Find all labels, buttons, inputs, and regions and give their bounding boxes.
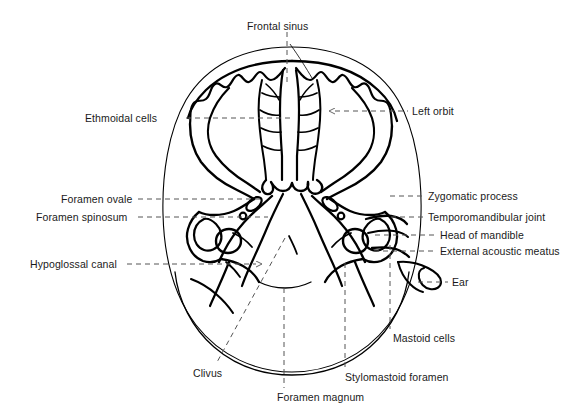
frontal-inner-table-right [296,68,392,126]
petrous-detail-left [332,233,351,247]
foramen-spinosum-right [240,213,247,220]
label-foramen-magnum: Foramen magnum [277,391,364,403]
label-mastoid-cells: Mastoid cells [393,332,455,344]
tmj-space-left [368,231,408,237]
ethmoid-cell-oblique-left [266,84,279,100]
foramen-spinosum-left [338,213,345,220]
foramen-ovale-right [244,194,264,213]
label-frontal-sinus: Frontal sinus [247,20,308,32]
ethmoid-cell-septa-b [260,110,280,115]
ethmoid-septum-right [296,70,299,180]
label-ear: Ear [452,276,469,288]
label-stylomastoid-foramen: Stylomastoid foramen [345,371,449,383]
label-clivus: Clivus [193,367,222,379]
sphenoid-body [262,180,322,194]
label-foramen-spinosum: Foramen spinosum [36,211,127,223]
diagram-canvas [0,0,588,419]
ethmoid-cell-septa-c [261,128,281,132]
cranial-vault-inner-right [292,61,397,121]
ethmoid-cell-septa-g [298,128,318,132]
orbit-right-outer [190,124,254,199]
cranial-vault-inner [188,61,292,118]
jugular-left [355,262,374,306]
foramen-magnum-margin [259,282,311,288]
label-left-orbit: Left orbit [412,105,454,117]
label-hypoglossal-canal: Hypoglossal canal [30,258,117,270]
ethmoid-cell-septa-f [299,110,319,115]
skull-outlines [163,47,441,375]
ethmoid-cell-septa-d [263,146,281,150]
label-temporomandibular-joint: Temporomandibular joint [428,211,545,223]
ethmoid-septum-left [280,70,283,180]
clivus-left-border [301,194,342,286]
label-ethmoidal-cells: Ethmoidal cells [85,112,157,124]
petrous-detail-right [233,233,252,247]
label-zygomatic-process: Zygomatic process [428,190,518,202]
jugular-right [210,262,229,306]
label-head-of-mandible: Head of mandible [440,229,524,241]
ethmoid-cell-oblique-right [300,84,313,100]
foramen-ovale-left [320,194,340,213]
ethmoid-cell-septa-h [298,146,316,150]
label-foramen-ovale: Foramen ovale [61,193,132,205]
skull-base-diagram: Frontal sinus Ethmoidal cells Left orbit… [0,0,588,419]
clivus-detail [289,236,297,254]
clivus-right-border [242,194,283,286]
occipital-condyle-right [191,279,233,313]
label-external-acoustic-meatus: External acoustic meatus [440,245,560,257]
leader-clivus [216,238,285,364]
